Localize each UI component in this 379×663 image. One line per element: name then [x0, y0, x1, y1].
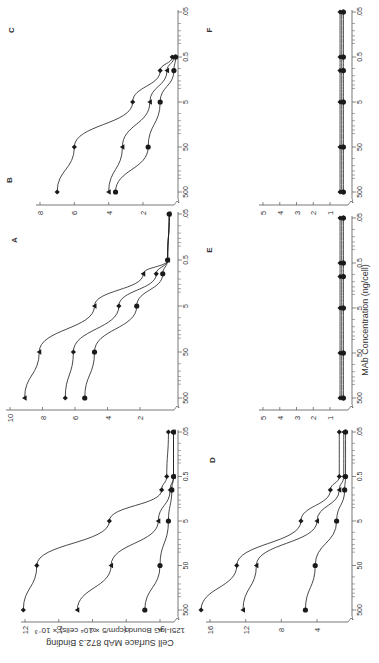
circle-marker [167, 211, 172, 216]
diamond-marker [130, 99, 135, 104]
x-tick-label: 5 [182, 304, 189, 308]
circle-marker [343, 474, 348, 479]
x-tick-label: .05 [182, 7, 189, 17]
x-tick-label: 50 [182, 348, 189, 356]
y-axis-label-line1: Cell Surface MAb 872.3 Binding [46, 638, 174, 648]
x-tick-label: 0.5 [182, 255, 189, 265]
y-tick-label: 12 [242, 626, 251, 634]
diamond-marker [21, 607, 26, 612]
diamond-marker [337, 429, 342, 434]
circle-marker [171, 68, 176, 73]
diamond-marker [164, 474, 169, 479]
y-tick-label: 10 [6, 414, 15, 422]
x-tick-label: 0.5 [356, 52, 363, 62]
y-tick-label: 8 [39, 416, 48, 420]
circle-marker [146, 144, 151, 149]
y-tick-label: 5 [259, 416, 268, 420]
x-tick-label: 500 [182, 186, 189, 198]
diamond-marker [198, 607, 203, 612]
y-tick-label: 3 [293, 211, 302, 215]
y-tick-label: 6 [70, 211, 79, 215]
diamond-marker [158, 68, 163, 73]
x-tick-label: 500 [182, 392, 189, 404]
series-line [57, 57, 172, 192]
circle-marker [113, 189, 118, 194]
x-tick-label: 50 [356, 143, 363, 151]
diamond-marker [166, 429, 171, 434]
circle-marker [134, 303, 139, 308]
panel-d: 5005050.5.05481216D [198, 427, 363, 634]
panel-b: 5005050.5.05246810B [5, 177, 189, 422]
diamond-marker [34, 563, 39, 568]
panels: 5005050.5.054681012A5005050.5.05246810B5… [5, 7, 363, 634]
circle-marker [341, 350, 346, 355]
x-tick-label: 0.5 [182, 52, 189, 62]
x-tick-label: .05 [182, 427, 189, 437]
circle-marker [341, 68, 346, 73]
series-line [25, 214, 170, 398]
y-tick-label: 4 [105, 211, 114, 215]
y-tick-label: 12 [21, 626, 30, 634]
panel-c: 5005050.5.052468C [7, 7, 189, 215]
y-tick-label: 6 [71, 416, 80, 420]
y-tick-label: 1 [326, 211, 335, 215]
panel-letter: A [10, 237, 19, 243]
x-tick-label: .05 [356, 7, 363, 17]
y-tick-label: 2 [136, 416, 145, 420]
circle-marker [169, 487, 174, 492]
circle-marker [303, 607, 308, 612]
panel-letter: C [7, 27, 16, 33]
series-line [23, 432, 168, 610]
panel-letter: D [208, 457, 217, 463]
series-line [243, 432, 344, 610]
panel-f: 5005050.5.0512345F [205, 7, 363, 215]
x-tick-label: 500 [356, 604, 363, 616]
series-line [109, 57, 174, 192]
circle-marker [157, 563, 162, 568]
diamond-marker [71, 349, 76, 354]
circle-marker [341, 260, 346, 265]
panel-letter: F [205, 27, 214, 32]
y-axis-label-line2: 125I-IgG Bound (cpm/5 × 10⁴ cells) × 10⁻… [35, 626, 186, 635]
circle-marker [341, 274, 346, 279]
circle-marker [341, 305, 346, 310]
circle-marker [342, 487, 347, 492]
circle-marker [334, 518, 339, 523]
x-axis-label: MAb Concentration (ng/cell) [360, 264, 370, 376]
circle-marker [142, 607, 147, 612]
circle-marker [341, 189, 346, 194]
panel-a: 5005050.5.054681012A [10, 237, 189, 634]
diamond-marker [72, 144, 77, 149]
diamond-marker [55, 189, 60, 194]
x-tick-label: 50 [182, 562, 189, 570]
diamond-marker [298, 518, 303, 523]
x-tick-label: 5 [356, 519, 363, 523]
diamond-marker [154, 271, 159, 276]
x-tick-label: .05 [356, 213, 363, 223]
circle-marker [171, 429, 176, 434]
x-tick-label: 5 [356, 100, 363, 104]
y-tick-label: 16 [206, 626, 215, 634]
diamond-marker [234, 563, 239, 568]
circle-marker [171, 474, 176, 479]
x-tick-label: 50 [182, 143, 189, 151]
x-tick-label: 5 [182, 100, 189, 104]
y-tick-label: 2 [309, 211, 318, 215]
y-tick-label: 4 [313, 628, 322, 632]
circle-marker [343, 429, 348, 434]
circle-marker [166, 518, 171, 523]
y-tick-label: 3 [293, 416, 302, 420]
circle-marker [341, 54, 346, 59]
diamond-marker [337, 474, 342, 479]
circle-marker [341, 215, 346, 220]
y-tick-label: 2 [139, 211, 148, 215]
diamond-marker [159, 487, 164, 492]
y-tick-label: 5 [259, 211, 268, 215]
circle-marker [92, 349, 97, 354]
circle-marker [341, 395, 346, 400]
series-line [116, 57, 176, 192]
y-tick-label: 8 [36, 211, 45, 215]
panel-e: 5005050.5.0512345E [205, 213, 363, 420]
panel-letter: E [205, 247, 214, 253]
circle-marker [158, 99, 163, 104]
